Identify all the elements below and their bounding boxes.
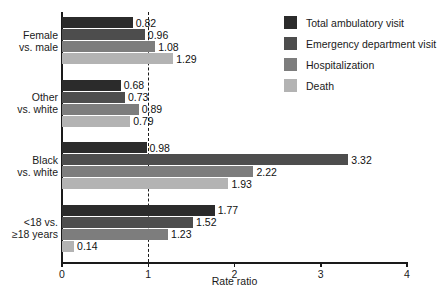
category-label-line: vs. white xyxy=(2,166,58,178)
bar xyxy=(62,241,74,252)
x-tick-4 xyxy=(406,262,408,267)
category-label: <18 vs.≥18 years xyxy=(2,216,58,240)
category-label: Othervs. white xyxy=(2,91,58,115)
bar-value-label: 0.89 xyxy=(142,104,162,115)
category-label-line: vs. male xyxy=(2,41,58,53)
bar xyxy=(62,217,193,228)
legend-item: Hospitalization xyxy=(284,55,436,74)
bar-value-label: 0.82 xyxy=(136,18,156,29)
legend-label: Total ambulatory visit xyxy=(306,17,404,29)
bar xyxy=(62,104,139,115)
legend-label: Hospitalization xyxy=(306,59,374,71)
bar xyxy=(62,53,173,64)
category-axis-labels: Femalevs. maleOthervs. whiteBlackvs. whi… xyxy=(0,12,58,262)
category-label-line: <18 vs. xyxy=(2,216,58,228)
legend-swatch-icon xyxy=(284,58,297,71)
bar-value-label: 1.29 xyxy=(176,54,196,65)
bar xyxy=(62,80,121,91)
bar xyxy=(62,29,145,40)
rate-ratio-bar-chart: Femalevs. maleOthervs. whiteBlackvs. whi… xyxy=(0,0,444,297)
bar xyxy=(62,116,130,127)
x-tick-0 xyxy=(61,262,63,267)
bar-value-label: 1.52 xyxy=(196,217,216,228)
legend-item: Emergency department visit xyxy=(284,34,436,53)
x-tick-3 xyxy=(320,262,322,267)
legend: Total ambulatory visitEmergency departme… xyxy=(284,13,436,97)
bar xyxy=(62,154,348,165)
bar-value-label: 1.23 xyxy=(171,229,191,240)
bar-value-label: 1.08 xyxy=(158,42,178,53)
x-tick-2 xyxy=(234,262,236,267)
bar-value-label: 1.77 xyxy=(218,205,238,216)
legend-item: Death xyxy=(284,76,436,95)
bar-value-label: 2.22 xyxy=(256,167,276,178)
bar xyxy=(62,229,168,240)
bar-value-label: 0.14 xyxy=(77,241,97,252)
legend-swatch-icon xyxy=(284,37,297,50)
bar-value-label: 3.32 xyxy=(351,155,371,166)
bar xyxy=(62,92,125,103)
category-label-line: Female xyxy=(2,29,58,41)
bar-value-label: 0.98 xyxy=(150,143,170,154)
bar-value-label: 0.79 xyxy=(133,116,153,127)
legend-label: Death xyxy=(306,80,334,92)
x-tick-1 xyxy=(148,262,150,267)
bar-value-label: 0.96 xyxy=(148,30,168,41)
bar-value-label: 0.73 xyxy=(128,92,148,103)
x-axis-title: Rate ratio xyxy=(62,275,407,287)
bar xyxy=(62,166,253,177)
legend-label: Emergency department visit xyxy=(306,38,436,50)
category-label: Blackvs. white xyxy=(2,154,58,178)
category-label-line: Other xyxy=(2,91,58,103)
bar-value-label: 0.68 xyxy=(124,80,144,91)
legend-swatch-icon xyxy=(284,79,297,92)
bar xyxy=(62,41,155,52)
category-label-line: ≥18 years xyxy=(2,228,58,240)
category-label: Femalevs. male xyxy=(2,29,58,53)
bar xyxy=(62,17,133,28)
bar xyxy=(62,205,215,216)
category-label-line: vs. white xyxy=(2,103,58,115)
legend-swatch-icon xyxy=(284,16,297,29)
bar xyxy=(62,142,147,153)
category-label-line: Black xyxy=(2,154,58,166)
legend-item: Total ambulatory visit xyxy=(284,13,436,32)
bar-value-label: 1.93 xyxy=(231,179,251,190)
bar xyxy=(62,178,228,189)
